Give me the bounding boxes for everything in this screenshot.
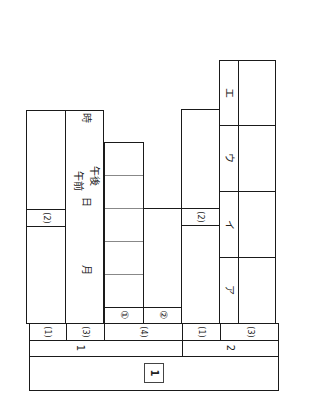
day-label: 日 bbox=[81, 197, 91, 207]
g1-q3-label: (3) bbox=[81, 326, 90, 337]
g1-q4-2-answer-box[interactable] bbox=[143, 208, 183, 308]
g1-q4-label: (4) bbox=[139, 326, 148, 337]
g1-q4-1-answer-box[interactable] bbox=[104, 142, 144, 308]
g1-q4-2-label: ② bbox=[158, 310, 168, 320]
choice-u-label: ウ bbox=[224, 153, 234, 163]
pm-label: 午後 bbox=[89, 166, 99, 186]
hour-label: 時 bbox=[81, 113, 91, 123]
g2-q3-label: (3) bbox=[246, 326, 255, 337]
g2-q1-label: (1) bbox=[197, 326, 206, 337]
g1-q2-answer-box[interactable] bbox=[26, 110, 66, 210]
grid-line bbox=[105, 175, 143, 176]
g1-q4-1-label: ① bbox=[119, 310, 129, 320]
group-1-label-cell bbox=[29, 340, 183, 357]
choice-a-answer-box[interactable] bbox=[238, 257, 276, 324]
choice-e-answer-box[interactable] bbox=[238, 60, 276, 126]
g1-q1-label: (1) bbox=[43, 326, 52, 337]
g1-q3-answer-box[interactable] bbox=[65, 110, 104, 324]
choice-a-label: ア bbox=[224, 285, 234, 295]
g2-q2-answer-box[interactable] bbox=[181, 109, 220, 209]
choice-i-label: イ bbox=[224, 220, 234, 230]
g2-q1-answer-box[interactable] bbox=[181, 225, 220, 324]
grid-line bbox=[105, 241, 143, 242]
choice-u-answer-box[interactable] bbox=[238, 125, 276, 192]
grid-line bbox=[105, 274, 143, 275]
choice-i-answer-box[interactable] bbox=[238, 191, 276, 258]
section-number: 1 bbox=[149, 370, 159, 377]
group-1-label: 1 bbox=[75, 345, 85, 351]
month-label: 月 bbox=[81, 265, 91, 275]
choice-e-label: エ bbox=[224, 88, 234, 98]
g2-q2-label: (2) bbox=[196, 211, 205, 222]
g1-q2-label: (2) bbox=[42, 212, 51, 223]
g1-q1-answer-box[interactable] bbox=[26, 226, 66, 324]
am-label: 午前 bbox=[73, 171, 83, 191]
grid-line bbox=[105, 208, 143, 209]
group-2-label: 2 bbox=[225, 345, 235, 351]
